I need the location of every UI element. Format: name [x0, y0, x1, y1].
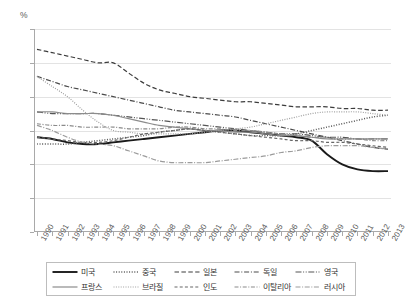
legend-item-label: 미국: [81, 266, 95, 277]
x-axis-tick: [220, 232, 221, 236]
legend-item-label: 브라질: [142, 281, 163, 292]
data-line: [37, 112, 388, 139]
x-axis-tick: [266, 232, 267, 236]
legend-item-10[interactable]: 러시아: [292, 281, 353, 292]
x-axis-tick: [144, 232, 145, 236]
data-line: [37, 115, 388, 144]
data-lines-group: [34, 29, 391, 232]
legend-swatch-line: [113, 269, 139, 275]
x-axis-tick: [296, 232, 297, 236]
legend-swatch-line: [174, 269, 200, 275]
legend-swatch-line: [52, 284, 78, 290]
x-axis-tick: [205, 232, 206, 236]
data-line: [37, 130, 388, 171]
x-axis-tick: [37, 232, 38, 236]
legend-item-1[interactable]: 미국: [49, 266, 110, 277]
legend-swatch-line: [52, 269, 78, 275]
legend-item-9[interactable]: 이탈리아: [231, 281, 292, 292]
x-axis-tick: [342, 232, 343, 236]
x-axis-tick: [98, 232, 99, 236]
x-axis-tick: [373, 232, 374, 236]
y-axis-tick: [30, 131, 34, 132]
x-axis-tick: [190, 232, 191, 236]
x-axis-tick: [327, 232, 328, 236]
y-axis-unit-label: %: [20, 10, 28, 20]
legend-item-label: 일본: [203, 266, 217, 277]
y-axis-tick: [30, 97, 34, 98]
x-axis-tick: [113, 232, 114, 236]
x-axis-tick: [235, 232, 236, 236]
x-axis-tick: [281, 232, 282, 236]
legend-swatch-line: [295, 269, 321, 275]
legend-swatch-line: [113, 284, 139, 290]
legend-item-4[interactable]: 독일: [231, 266, 292, 277]
x-axis-tick: [174, 232, 175, 236]
y-axis-tick: [30, 164, 34, 165]
data-line: [37, 49, 388, 110]
y-axis-tick: [30, 63, 34, 64]
data-line: [37, 112, 388, 139]
legend-swatch-line: [174, 284, 200, 290]
legend-item-3[interactable]: 일본: [171, 266, 232, 277]
x-axis-tick: [52, 232, 53, 236]
y-axis-tick: [30, 198, 34, 199]
legend-swatch-line: [295, 284, 321, 290]
x-axis-tick: [357, 232, 358, 236]
legend-item-6[interactable]: 프랑스: [49, 281, 110, 292]
legend-item-label: 러시아: [324, 281, 345, 292]
legend-item-label: 이탈리아: [263, 281, 291, 292]
x-axis-tick: [129, 232, 130, 236]
x-axis-tick-label: 2013: [390, 223, 407, 243]
x-axis-tick: [159, 232, 160, 236]
y-axis-tick: [30, 29, 34, 30]
legend-swatch-line: [234, 269, 260, 275]
legend-item-5[interactable]: 영국: [292, 266, 353, 277]
x-axis-tick: [251, 232, 252, 236]
legend-item-2[interactable]: 중국: [110, 266, 171, 277]
data-line: [37, 124, 388, 141]
chart-legend: 미국중국일본독일영국프랑스브라질인도이탈리아러시아: [46, 262, 356, 296]
data-line: [37, 76, 388, 149]
x-axis-tick: [83, 232, 84, 236]
legend-item-label: 영국: [324, 266, 338, 277]
x-axis-tick: [68, 232, 69, 236]
x-axis-tick: [388, 232, 389, 236]
x-axis-tick: [312, 232, 313, 236]
legend-item-label: 중국: [142, 266, 156, 277]
y-axis-tick: [30, 232, 34, 233]
plot-area: [34, 29, 391, 232]
legend-item-7[interactable]: 브라질: [110, 281, 171, 292]
legend-item-label: 인도: [203, 281, 217, 292]
legend-item-8[interactable]: 인도: [171, 281, 232, 292]
legend-swatch-line: [234, 284, 260, 290]
legend-item-label: 독일: [263, 266, 277, 277]
legend-item-label: 프랑스: [81, 281, 102, 292]
data-line: [37, 76, 388, 134]
